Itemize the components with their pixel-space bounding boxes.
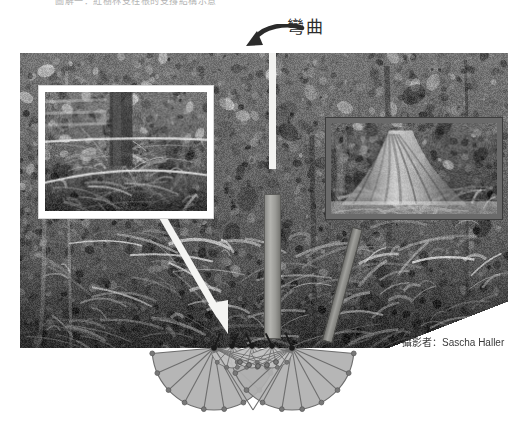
root-fan-node — [260, 400, 265, 405]
inset-left-canvas — [45, 92, 207, 211]
root-fan-node — [279, 407, 284, 412]
inset-photo-left — [38, 85, 214, 219]
figure-stage: 圖解一：紅樹林支柱根的支撐結構示意 彎曲 攝影者：Sascha Haller — [0, 0, 530, 426]
inner-fan-node — [235, 365, 239, 369]
arrow-down-right-icon — [158, 212, 258, 342]
trunk-upper-highlight — [269, 53, 276, 169]
anchor-node — [289, 345, 295, 351]
anchor-node — [249, 343, 255, 349]
root-fan-diagram — [0, 330, 530, 426]
root-fan-node — [166, 388, 171, 393]
inset-right-canvas — [331, 123, 497, 214]
root-fan-node — [150, 351, 155, 356]
root-fan-node — [201, 407, 206, 412]
bend-annotation-label: 彎曲 — [287, 19, 325, 36]
root-fan-node — [351, 351, 356, 356]
root-fan-node — [346, 371, 351, 376]
trunk-bar — [264, 194, 281, 339]
root-fan-node — [335, 388, 340, 393]
inner-fan-node — [215, 360, 219, 364]
root-fan-node — [300, 407, 305, 412]
root-fan-node — [222, 407, 227, 412]
figure-top-caption: 圖解一：紅樹林支柱根的支撐結構示意 — [55, 0, 265, 5]
anchor-node — [211, 345, 217, 351]
inset-photo-right — [325, 117, 503, 220]
root-fan-node — [319, 400, 324, 405]
anchor-node — [229, 343, 235, 349]
mid-node — [274, 360, 279, 365]
mid-node — [256, 364, 261, 369]
inner-fan-node — [285, 360, 289, 364]
root-fan-node — [244, 388, 249, 393]
root-fan-node — [233, 371, 238, 376]
mid-node — [238, 360, 243, 365]
anchor-node — [269, 343, 275, 349]
mid-node — [265, 363, 270, 368]
root-fan-node — [155, 371, 160, 376]
root-fan-node — [182, 400, 187, 405]
mid-node — [247, 363, 252, 368]
root-fan-node — [241, 400, 246, 405]
